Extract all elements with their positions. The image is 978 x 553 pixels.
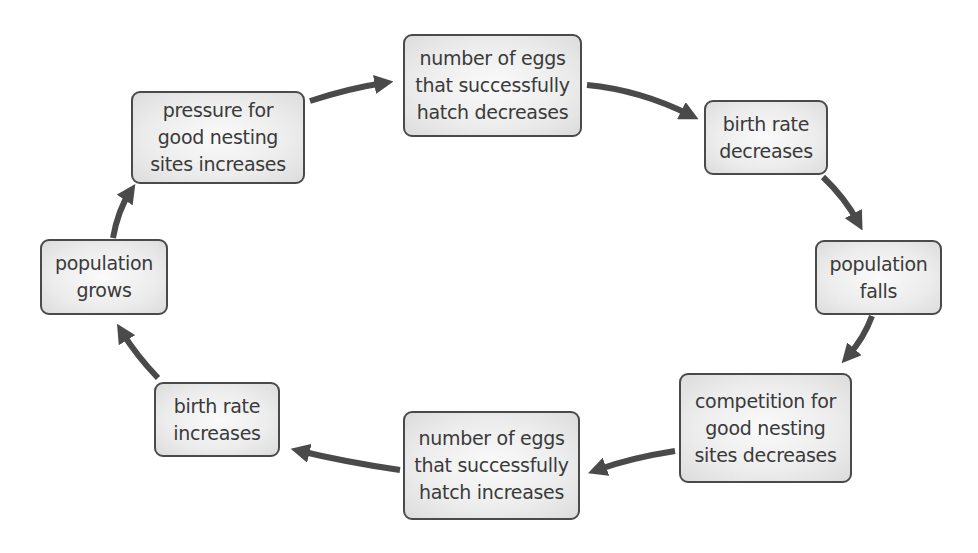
arrow-birth-decrease-to-pop-falls	[823, 177, 858, 222]
arrow-eggs-decrease-to-birth-decrease	[587, 85, 690, 115]
node-text-line: increases	[173, 420, 260, 447]
node-text-line: grows	[76, 277, 131, 304]
node-text-line: sites decreases	[694, 442, 836, 469]
node-population-grows: population grows	[40, 239, 168, 315]
node-text-line: falls	[860, 278, 897, 305]
node-text-line: sites increases	[150, 151, 286, 178]
arrow-eggs-increase-to-birth-increase	[300, 451, 400, 470]
node-text-line: competition for	[695, 388, 836, 415]
node-text-line: number of eggs	[418, 425, 564, 452]
node-text-line: hatch decreases	[417, 99, 569, 126]
node-eggs-hatch-decreases: number of eggs that successfully hatch d…	[403, 34, 582, 137]
node-text-line: decreases	[719, 138, 813, 165]
arrow-pressure-to-eggs-decrease	[310, 83, 384, 101]
arrow-pop-grows-to-pressure	[113, 192, 130, 238]
node-population-falls: population falls	[815, 240, 942, 315]
arrow-birth-increase-to-pop-grows	[122, 332, 158, 378]
node-eggs-hatch-increases: number of eggs that successfully hatch i…	[403, 411, 580, 520]
arrow-competition-to-eggs-increase	[597, 451, 675, 470]
node-birth-rate-decreases: birth rate decreases	[704, 100, 828, 175]
node-text-line: population	[55, 250, 153, 277]
node-text-line: number of eggs	[419, 45, 565, 72]
node-text-line: pressure for	[163, 97, 274, 124]
node-text-line: good nesting	[158, 124, 278, 151]
node-text-line: hatch increases	[419, 479, 564, 506]
node-pressure-increases: pressure for good nesting sites increase…	[131, 91, 305, 184]
node-text-line: that successfully	[415, 72, 569, 99]
node-text-line: population	[829, 251, 927, 278]
node-text-line: birth rate	[723, 111, 809, 138]
node-birth-rate-increases: birth rate increases	[154, 382, 280, 457]
node-text-line: birth rate	[174, 393, 260, 420]
population-feedback-cycle-diagram: pressure for good nesting sites increase…	[0, 0, 978, 553]
node-text-line: that successfully	[414, 452, 568, 479]
arrow-pop-falls-to-competition	[848, 316, 872, 356]
node-text-line: good nesting	[705, 415, 825, 442]
node-competition-decreases: competition for good nesting sites decre…	[679, 373, 852, 483]
